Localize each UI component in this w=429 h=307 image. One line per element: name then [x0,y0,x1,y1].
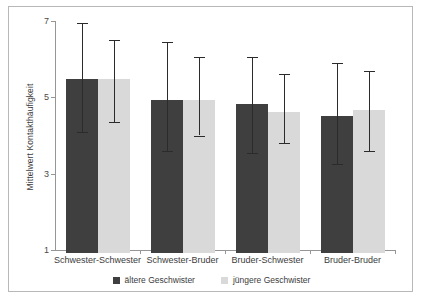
x-tick-mark [310,250,311,254]
error-bar-cap-lower [247,153,258,154]
y-tick-label: 5 [44,92,49,102]
x-tick-label: Schwester-Bruder [146,255,218,265]
error-bar-cap-lower [109,122,120,123]
y-tick-label: 7 [44,16,49,26]
error-bar-line [284,74,285,143]
error-bar-cap-lower [332,164,343,165]
legend-item: jüngere Geschwister [221,275,310,285]
y-tick-label: 3 [44,169,49,179]
plot-area: 1357 Schwester-SchwesterSchwester-Bruder… [55,21,395,253]
error-bar-cap-upper [364,71,375,72]
error-bar-line [252,57,253,152]
x-tick-label: Bruder-Schwester [231,255,303,265]
chart-figure: Mittelwert Kontakthäufigkeit 1357 Schwes… [8,6,413,292]
error-bar-cap-upper [109,40,120,41]
error-bar-cap-upper [194,57,205,58]
y-axis-line [55,21,56,250]
y-tick-mark [51,174,55,175]
x-tick-mark [225,250,226,254]
error-bar-cap-upper [77,23,88,24]
error-bar-line [369,71,370,151]
y-tick-mark [51,21,55,22]
error-bar-cap-lower [194,136,205,137]
legend-label: ältere Geschwister [125,275,195,285]
error-bar-cap-upper [279,74,290,75]
legend-label: jüngere Geschwister [233,275,310,285]
x-tick-label: Schwester-Schwester [54,255,141,265]
error-bar-line [114,40,115,122]
x-tick-mark [140,250,141,254]
legend-item: ältere Geschwister [113,275,195,285]
error-bar-line [337,63,338,164]
y-tick-mark [51,250,55,251]
error-bar-line [82,23,83,132]
legend-swatch-icon [221,277,228,284]
legend-swatch-icon [113,277,120,284]
error-bar-cap-upper [247,57,258,58]
chart-legend: ältere Geschwisterjüngere Geschwister [9,275,414,285]
error-bar-cap-lower [279,143,290,144]
error-bar-cap-upper [162,42,173,43]
y-tick-mark [51,97,55,98]
error-bar-cap-lower [77,132,88,133]
error-bar-cap-lower [364,151,375,152]
y-axis-title: Mittelwert Kontakthäufigkeit [23,21,37,253]
error-bar-cap-lower [162,151,173,152]
x-tick-mark [395,250,396,254]
error-bar-cap-upper [332,63,343,64]
y-tick-label: 1 [44,245,49,255]
error-bar-line [167,42,168,151]
error-bar-line [199,57,200,135]
x-tick-label: Bruder-Bruder [324,255,381,265]
y-axis-title-text: Mittelwert Kontakthäufigkeit [25,84,35,191]
